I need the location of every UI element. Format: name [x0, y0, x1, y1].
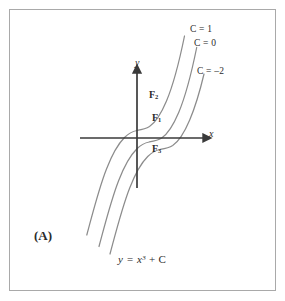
family-label-f3: F3: [152, 143, 161, 154]
panel-label: (A): [34, 228, 52, 244]
curve-c-minus-2: [110, 74, 204, 254]
curve-label-c-1: C = 1: [190, 24, 212, 34]
curve-label-c-0: C = 0: [194, 38, 216, 48]
figure-panel-a: C = 1 C = 0 C = –2 F2 F1 F3 y x (A) y = …: [0, 0, 285, 301]
family-label-f3-subscript: 3: [158, 147, 161, 154]
family-label-f2-subscript: 2: [155, 93, 158, 100]
equation-caption: y = x3 + C: [118, 253, 166, 265]
equation-prefix: y = x: [118, 253, 142, 265]
y-axis-label: y: [135, 57, 139, 68]
x-axis-label: x: [209, 128, 213, 139]
family-label-f1-subscript: 1: [158, 116, 161, 123]
family-label-f2: F2: [149, 89, 158, 100]
family-label-f1: F1: [152, 112, 161, 123]
curve-c-0: [99, 48, 197, 247]
curve-label-c-minus-2: C = –2: [197, 66, 224, 76]
equation-suffix: + C: [146, 253, 166, 265]
